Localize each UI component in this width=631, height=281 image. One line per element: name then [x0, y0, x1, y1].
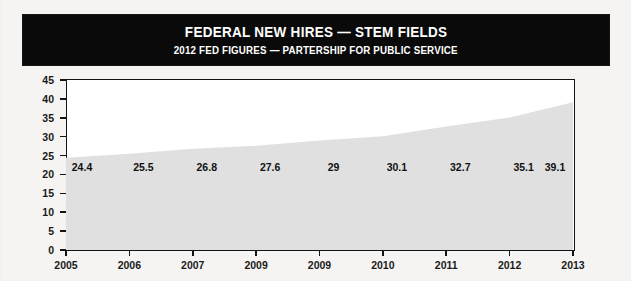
x-tick-label: 2012 [498, 259, 521, 271]
y-tick-mark [60, 174, 66, 176]
y-tick-label: 25 [28, 150, 54, 162]
x-tick-mark [129, 250, 131, 256]
area-series [0, 0, 631, 281]
y-tick-mark [60, 155, 66, 157]
x-tick-label: 2011 [435, 259, 458, 271]
x-tick-mark [572, 250, 574, 256]
value-label: 27.6 [260, 161, 280, 173]
x-tick-label: 2010 [371, 259, 394, 271]
y-tick-mark [60, 79, 66, 81]
value-label: 30.1 [387, 161, 407, 173]
y-tick-label: 5 [28, 225, 54, 237]
chart-page: FEDERAL NEW HIRES — STEM FIELDS 2012 FED… [0, 0, 631, 281]
value-label: 29 [328, 161, 340, 173]
y-tick-label: 45 [28, 74, 54, 86]
y-tick-label: 0 [28, 244, 54, 256]
x-tick-mark [319, 250, 321, 256]
x-tick-label: 2009 [308, 259, 331, 271]
y-tick-mark [60, 136, 66, 138]
y-tick-label: 15 [28, 187, 54, 199]
x-tick-mark [255, 250, 257, 256]
x-tick-label: 2006 [118, 259, 141, 271]
y-tick-label: 40 [28, 93, 54, 105]
x-tick-label: 2005 [54, 259, 77, 271]
y-tick-mark [60, 211, 66, 213]
value-label: 26.8 [197, 161, 217, 173]
y-tick-label: 35 [28, 112, 54, 124]
y-tick-mark [60, 117, 66, 119]
y-tick-label: 20 [28, 168, 54, 180]
x-tick-mark [382, 250, 384, 256]
x-tick-mark [509, 250, 511, 256]
y-tick-mark [60, 193, 66, 195]
y-tick-mark [60, 230, 66, 232]
x-tick-label: 2007 [181, 259, 204, 271]
value-label: 25.5 [133, 161, 153, 173]
y-tick-label: 10 [28, 206, 54, 218]
value-label: 32.7 [450, 161, 470, 173]
x-tick-label: 2009 [244, 259, 267, 271]
value-label: 35.1 [513, 161, 533, 173]
x-tick-mark [192, 250, 194, 256]
x-tick-label: 2013 [561, 259, 584, 271]
value-label: 39.1 [545, 161, 565, 173]
value-label: 24.4 [72, 161, 92, 173]
y-tick-mark [60, 98, 66, 100]
chart-plot: 051015202530354045 200520062007200920092… [0, 0, 631, 281]
y-tick-label: 30 [28, 131, 54, 143]
x-tick-mark [445, 250, 447, 256]
x-tick-mark [65, 250, 67, 256]
